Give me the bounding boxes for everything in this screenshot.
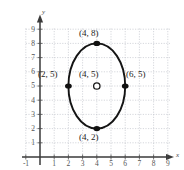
point-label-center: (4, 5) [79, 70, 99, 79]
point-marker-4-8 [93, 41, 100, 46]
x-axis-label: x [176, 152, 179, 159]
point-label-left: (2, 5) [38, 70, 58, 79]
x-tick-label-2: 2 [64, 160, 72, 168]
plot-canvas [0, 0, 184, 170]
y-tick-label-5: 5 [29, 82, 37, 90]
x-tick-label-9: 9 [164, 160, 172, 168]
x-tick-label-6: 6 [121, 160, 129, 168]
point-marker-4-2 [93, 126, 100, 131]
point-label-bottom: (4, 2) [79, 133, 99, 142]
y-tick-label-3: 3 [29, 111, 37, 119]
x-tick-label-7: 7 [135, 160, 143, 168]
y-axis-label: y [42, 9, 45, 16]
point-label-top: (4, 8) [79, 29, 99, 38]
point-marker-2-5 [65, 83, 72, 88]
coordinate-plane-figure: y x 9 8 7 6 5 4 3 2 1 -1 1 2 3 4 5 6 7 8… [0, 0, 184, 170]
y-tick-label-2: 2 [29, 125, 37, 133]
y-tick-label-9: 9 [29, 26, 37, 34]
y-tick-label-7: 7 [29, 54, 37, 62]
x-tick-label-3: 3 [79, 160, 87, 168]
x-tick-label-neg1: -1 [21, 160, 31, 168]
x-tick-label-8: 8 [150, 160, 158, 168]
point-marker-6-5 [122, 83, 129, 88]
y-tick-label-8: 8 [29, 40, 37, 48]
point-label-right: (6, 5) [126, 70, 146, 79]
y-tick-label-6: 6 [29, 68, 37, 76]
y-tick-label-1: 1 [29, 139, 37, 147]
x-tick-label-1: 1 [50, 160, 58, 168]
center-marker-4-5 [94, 83, 100, 89]
y-tick-label-4: 4 [29, 97, 37, 105]
x-tick-label-4: 4 [93, 160, 101, 168]
x-tick-label-5: 5 [107, 160, 115, 168]
